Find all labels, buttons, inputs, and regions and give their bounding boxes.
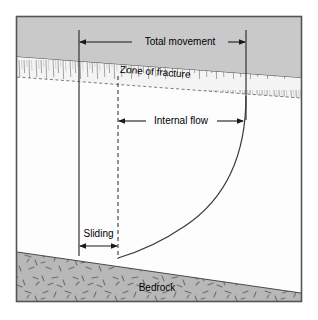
bedrock-label: Bedrock: [139, 282, 177, 293]
total-movement-label: Total movement: [145, 36, 216, 47]
measure-sliding: Sliding: [79, 228, 118, 249]
glacier-cross-section-svg: Total movement Zone of fracture Internal…: [0, 0, 318, 320]
sliding-label: Sliding: [83, 228, 113, 239]
glacier-diagram: Total movement Zone of fracture Internal…: [0, 0, 318, 320]
diagram-body: Total movement Zone of fracture Internal…: [17, 17, 301, 301]
internal-flow-label: Internal flow: [154, 115, 209, 126]
